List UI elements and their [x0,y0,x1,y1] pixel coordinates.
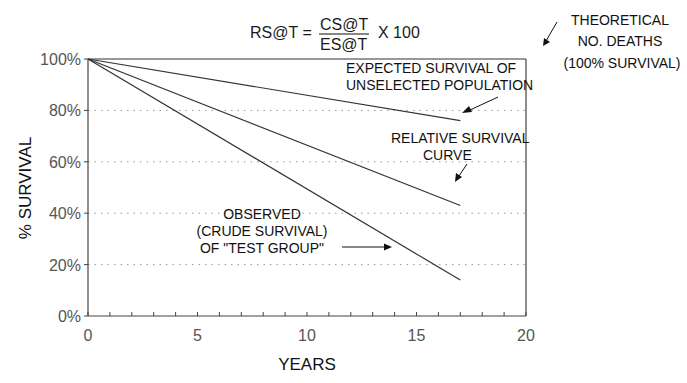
annotation-observed-line3: OF "TEST GROUP" [200,240,324,256]
annotation-expected-line2: UNSELECTED POPULATION [346,77,533,93]
annotation-expected: EXPECTED SURVIVAL OF UNSELECTED POPULATI… [346,60,533,113]
formula-denominator: ES@T [320,36,368,53]
annotation-theoretical-line2: NO. DEATHS [578,33,663,49]
arrow-icon [342,244,392,251]
annotation-expected-line1: EXPECTED SURVIVAL OF [346,60,516,76]
ticks: 051015200%20%40%60%80%100% [40,51,535,344]
x-tick-label: 0 [84,327,93,344]
x-tick-label: 15 [408,327,426,344]
arrow-icon [455,164,467,182]
annotation-relative-line2: CURVE [423,147,472,163]
annotation-observed: OBSERVED (CRUDE SURVIVAL) OF "TEST GROUP… [197,206,392,256]
y-tick-label: 40% [49,205,81,222]
annotation-observed-line2: (CRUDE SURVIVAL) [197,223,328,239]
y-tick-label: 60% [49,154,81,171]
y-tick-label: 20% [49,257,81,274]
x-tick-label: 10 [298,327,316,344]
y-tick-label: 80% [49,102,81,119]
formula-numerator: CS@T [320,16,368,33]
y-tick-label: 0% [58,308,81,325]
formula: RS@T = CS@T ES@T X 100 [250,16,420,53]
annotation-theoretical-line3: (100% SURVIVAL) [564,55,681,71]
x-axis-title: YEARS [278,355,336,374]
formula-rhs: X 100 [378,24,420,41]
annotation-relative-line1: RELATIVE SURVIVAL [391,130,530,146]
arrow-icon [543,22,557,46]
x-tick-label: 20 [517,327,535,344]
annotation-relative: RELATIVE SURVIVAL CURVE [391,130,530,182]
annotation-theoretical-line1: THEORETICAL [571,12,669,28]
annotation-observed-line1: OBSERVED [223,206,301,222]
relative-survival-chart: RS@T = CS@T ES@T X 100 051015200%20%40%6… [0,0,687,383]
x-tick-label: 5 [193,327,202,344]
y-tick-label: 100% [40,51,81,68]
annotation-theoretical: THEORETICAL NO. DEATHS (100% SURVIVAL) [543,12,680,71]
formula-lhs: RS@T = [250,24,312,41]
y-axis-title: % SURVIVAL [16,137,35,239]
arrow-icon [462,97,498,113]
